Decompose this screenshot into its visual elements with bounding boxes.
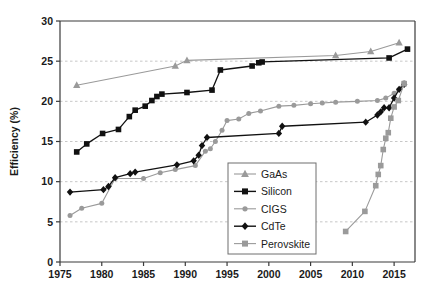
data-point-square: [383, 135, 389, 141]
series-line: [77, 43, 399, 86]
data-point-circle: [291, 103, 296, 108]
legend-label-gaas: GaAs: [261, 168, 287, 180]
data-point-circle: [225, 118, 230, 123]
data-point-square: [385, 130, 391, 136]
data-point-diamond: [127, 170, 133, 177]
data-point-triangle: [172, 62, 179, 69]
series-silicon: [74, 46, 410, 154]
data-point-square: [132, 107, 138, 113]
data-point-circle: [79, 206, 84, 211]
data-point-square: [380, 147, 386, 153]
data-point-circle: [220, 128, 225, 133]
data-point-circle: [236, 117, 241, 122]
legend-label-cigs: CIGS: [261, 203, 287, 215]
x-tick-label: 2015: [382, 268, 406, 280]
data-point-circle: [276, 104, 281, 109]
data-point-circle: [258, 108, 263, 113]
x-tick-label: 1985: [132, 268, 156, 280]
data-point-square: [84, 141, 90, 147]
data-point-square: [405, 46, 411, 52]
legend-marker-silicon: [242, 188, 248, 194]
data-point-diamond: [276, 130, 282, 137]
data-point-square: [388, 115, 394, 121]
data-point-square: [378, 163, 384, 169]
data-point-square: [375, 172, 381, 178]
x-tick-label: 1995: [215, 268, 239, 280]
y-tick-label: 30: [41, 15, 53, 27]
axis-tick-labels: 0510152025301975198019851990199520002005…: [41, 15, 406, 280]
data-point-circle: [246, 111, 251, 116]
data-point-diamond: [100, 186, 106, 193]
data-point-square: [259, 59, 265, 65]
data-point-diamond: [279, 123, 285, 130]
data-point-square: [373, 183, 379, 189]
data-point-diamond: [362, 119, 368, 126]
legend-marker-cigs: [242, 206, 247, 211]
data-point-circle: [333, 100, 338, 105]
data-point-circle: [375, 98, 380, 103]
data-point-square: [362, 209, 368, 215]
y-tick-label: 10: [41, 175, 53, 187]
data-point-circle: [68, 213, 73, 218]
y-tick-label: 25: [41, 55, 53, 67]
data-point-square: [184, 90, 190, 96]
data-point-square: [343, 229, 349, 235]
chart-canvas: 0510152025301975198019851990199520002005…: [0, 0, 432, 295]
legend-marker-perovskite: [242, 241, 248, 247]
data-point-diamond: [132, 168, 138, 175]
chart-legend: GaAsSiliconCIGSCdTePerovskite: [228, 163, 316, 254]
data-point-square: [395, 98, 401, 104]
data-point-square: [127, 114, 133, 120]
x-tick-label: 1990: [174, 268, 198, 280]
efficiency-chart: 0510152025301975198019851990199520002005…: [0, 0, 432, 295]
y-axis-label: Efficiency (%): [8, 107, 20, 176]
data-point-circle: [355, 99, 360, 104]
data-point-square: [209, 87, 215, 93]
data-point-square: [149, 98, 155, 104]
data-point-square: [154, 94, 160, 100]
y-tick-label: 20: [41, 95, 53, 107]
legend-label-perovskite: Perovskite: [261, 238, 310, 250]
data-point-square: [116, 127, 122, 133]
data-point-square: [391, 104, 397, 110]
data-point-circle: [141, 176, 146, 181]
legend-label-silicon: Silicon: [261, 185, 292, 197]
data-point-circle: [208, 146, 213, 151]
data-point-square: [74, 149, 80, 155]
series-perovskite: [343, 81, 407, 234]
data-point-square: [142, 103, 148, 109]
data-point-circle: [308, 101, 313, 106]
legend-label-cdte: CdTe: [261, 220, 286, 232]
data-point-square: [386, 55, 392, 61]
x-tick-label: 1980: [90, 268, 114, 280]
x-tick-label: 1975: [48, 268, 72, 280]
data-point-triangle: [395, 39, 402, 46]
x-tick-label: 2000: [257, 268, 281, 280]
data-point-square: [100, 131, 106, 137]
y-tick-label: 15: [41, 135, 53, 147]
data-point-circle: [99, 201, 104, 206]
data-point-circle: [213, 139, 218, 144]
data-point-circle: [320, 100, 325, 105]
data-point-square: [218, 67, 224, 73]
x-tick-label: 2005: [299, 268, 323, 280]
data-point-circle: [203, 149, 208, 154]
data-point-diamond: [67, 188, 73, 195]
x-tick-label: 2010: [341, 268, 365, 280]
data-point-square: [401, 81, 407, 87]
series-gaas: [73, 39, 403, 88]
data-point-circle: [158, 170, 163, 175]
y-axis-title: Efficiency (%): [8, 107, 20, 176]
data-point-square: [249, 63, 255, 69]
data-point-square: [159, 91, 165, 97]
data-point-circle: [383, 96, 388, 101]
y-tick-label: 0: [47, 256, 53, 268]
y-tick-label: 5: [47, 216, 53, 228]
